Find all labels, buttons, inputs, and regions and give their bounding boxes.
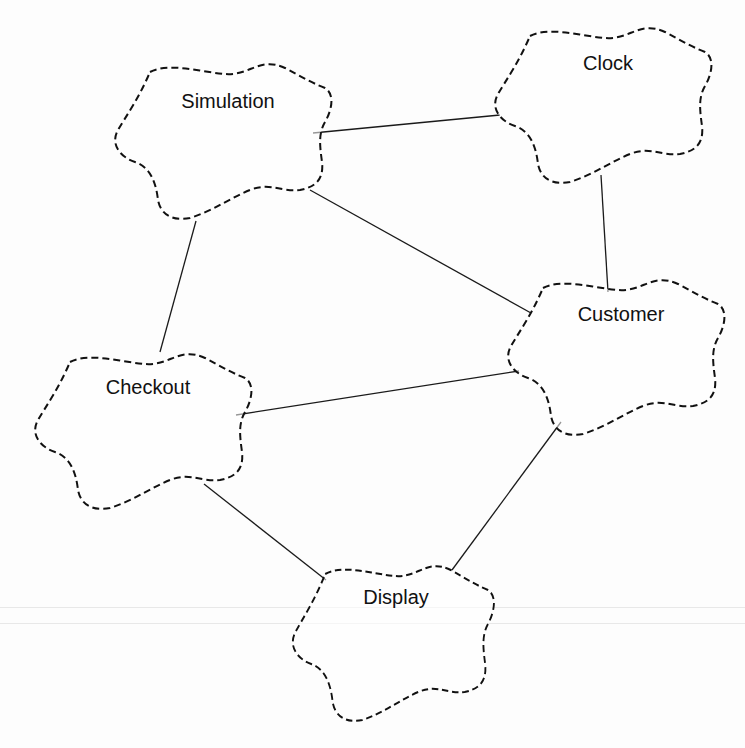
edge-simulation-checkout — [160, 221, 196, 352]
node-display-label: Display — [363, 586, 429, 609]
edge-simulation-customer — [310, 190, 531, 313]
edge-clock-customer — [601, 175, 608, 292]
node-simulation-label: Simulation — [181, 90, 274, 113]
edge-simulation-clock — [313, 115, 500, 133]
node-customer-label: Customer — [578, 303, 665, 326]
node-checkout-label: Checkout — [106, 376, 191, 399]
edge-checkout-display — [204, 484, 326, 580]
node-clock-label: Clock — [583, 52, 633, 75]
edge-checkout-customer — [236, 371, 519, 415]
node-simulation-cloud[interactable] — [115, 64, 331, 219]
edge-customer-display — [452, 422, 561, 570]
diagram-canvas — [0, 0, 745, 748]
